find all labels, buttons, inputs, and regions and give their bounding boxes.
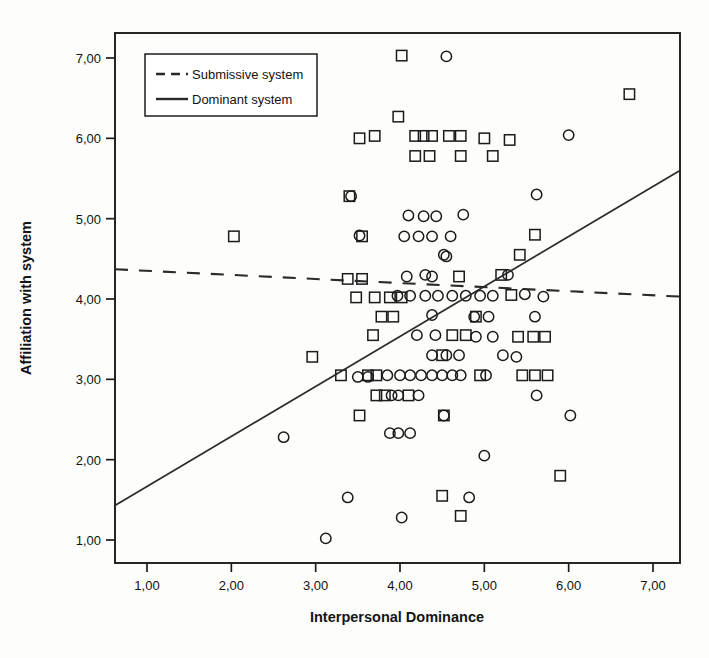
y-tick-label: 2,00 [76,453,101,468]
data-point-square [393,111,403,121]
data-point-square [461,330,471,340]
data-point-circle [441,51,451,61]
data-point-circle [538,291,548,301]
data-point-square [424,151,434,161]
x-tick-label: 4,00 [387,578,412,593]
data-point-square [447,330,457,340]
x-tick-label: 5,00 [472,578,497,593]
data-point-circle [431,211,441,221]
data-point-square [410,151,420,161]
y-tick-label: 1,00 [76,533,101,548]
data-point-circle [354,230,364,240]
data-point-square [343,274,353,284]
data-point-square [540,332,550,342]
data-point-circle [439,410,449,420]
data-point-circle [565,410,575,420]
data-point-circle [437,370,447,380]
data-point-circle [427,231,437,241]
data-point-circle [563,130,573,140]
data-point-circle [464,492,474,502]
data-point-circle [427,370,437,380]
data-point-square [456,131,466,141]
data-point-circle [479,450,489,460]
data-point-square [444,131,454,141]
data-point-circle [403,210,413,220]
y-tick-label: 5,00 [76,212,101,227]
data-point-circle [458,209,468,219]
y-tick-label: 6,00 [76,131,101,146]
data-point-square [530,370,540,380]
data-point-circle [413,390,423,400]
data-point-square [542,370,552,380]
chart-canvas: 1,002,003,004,005,006,007,00 7,006,005,0… [0,0,709,658]
data-point-circle [483,311,493,321]
data-point-circle [427,350,437,360]
data-point-circle [420,270,430,280]
data-point-circle [321,533,331,543]
data-point-circle [405,428,415,438]
data-point-square [456,511,466,521]
data-point-square [513,332,523,342]
data-point-circle [488,332,498,342]
data-point-square [370,131,380,141]
data-point-circle [433,291,443,301]
x-tick-label: 7,00 [640,578,665,593]
data-point-circle [454,350,464,360]
data-point-square [479,133,489,143]
data-point-square [388,311,398,321]
data-point-square [517,370,527,380]
data-point-square [488,151,498,161]
data-point-circle [395,370,405,380]
y-axis-tick-labels: 7,006,005,004,003,002,001,00 [76,51,101,548]
data-point-circle [475,291,485,301]
data-point-circle [418,211,428,221]
data-point-square [437,491,447,501]
data-markers-dominant-system [278,51,575,543]
data-point-circle [498,350,508,360]
x-axis-title: Interpersonal Dominance [310,609,484,625]
data-point-circle [420,291,430,301]
data-point-circle [416,370,426,380]
data-point-circle [402,271,412,281]
x-axis-ticks [147,563,653,572]
data-point-square [456,151,466,161]
data-point-circle [430,330,440,340]
data-point-square [229,231,239,241]
y-axis-title: Affiliation with system [18,221,34,375]
data-point-square [454,271,464,281]
legend-label-submissive: Submissive system [192,67,303,82]
scatter-plot-figure: 1,002,003,004,005,006,007,00 7,006,005,0… [0,0,709,658]
data-point-square [506,290,516,300]
data-point-circle [530,311,540,321]
x-tick-label: 6,00 [556,578,581,593]
data-point-circle [531,189,541,199]
data-point-square [368,330,378,340]
data-point-circle [353,372,363,382]
data-point-circle [278,432,288,442]
fit-line-dominant-system [115,170,680,505]
data-point-circle [396,512,406,522]
x-tick-label: 2,00 [219,578,244,593]
data-point-circle [488,291,498,301]
data-point-circle [531,390,541,400]
data-point-circle [393,390,403,400]
data-point-square [624,89,634,99]
regression-fit-lines [115,170,680,505]
data-point-circle [445,231,455,241]
data-point-circle [413,231,423,241]
data-point-circle [441,350,451,360]
data-point-circle [471,332,481,342]
data-point-square [555,471,565,481]
data-point-square [307,352,317,362]
data-point-square [530,230,540,240]
legend: Submissive system Dominant system [145,54,317,116]
data-point-circle [520,289,530,299]
data-point-circle [412,330,422,340]
data-point-square [370,292,380,302]
data-point-square [396,50,406,60]
data-point-circle [382,370,392,380]
data-point-circle [511,352,521,362]
y-tick-label: 3,00 [76,372,101,387]
y-tick-label: 7,00 [76,51,101,66]
data-point-square [504,135,514,145]
